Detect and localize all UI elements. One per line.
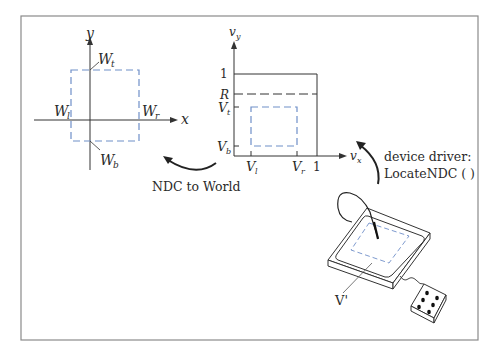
ndc-x-tick-vl: V l [246,159,258,176]
label-wr: W r [142,103,160,121]
svg-text:b: b [113,160,119,170]
svg-text:v: v [350,149,357,163]
svg-text:r: r [155,111,160,121]
ndc-y-tick-1: 1 [220,67,228,81]
world-y-label: y [85,25,95,41]
ndc-y-label: v y [229,25,241,41]
svg-text:x: x [357,156,362,165]
diagram-canvas: x y W t W b W l W r v y v x [0,0,494,355]
svg-text:l: l [67,111,70,121]
svg-text:t: t [111,59,115,69]
svg-text:t: t [227,108,231,117]
svg-text:r: r [301,167,306,176]
world-window-rect [71,70,139,141]
ndc-to-world-label: NDC to World [152,179,241,194]
device-viewport-label: V' [334,293,348,308]
label-wl: W l [54,103,70,121]
ndc-x-label: v x [350,149,362,165]
svg-text:b: b [226,147,231,156]
ndc-axes [231,41,347,159]
ndc-y-tick-vb: V b [217,139,231,156]
label-wt: W t [98,51,115,69]
svg-text:y: y [235,32,241,41]
ndc-to-world-arrow [163,156,216,170]
ndc-x-tick-vr: V r [292,159,306,176]
ndc-y-tick-vt: V t [218,100,231,117]
label-wb: W b [100,152,119,170]
device-driver-label-line2: LocateNDC ( ) [384,166,475,181]
svg-text:l: l [255,167,258,176]
ndc-viewport-rect [251,107,297,146]
device-driver-label-line1: device driver: [384,149,471,164]
world-x-label: x [181,111,189,127]
svg-text:v: v [229,25,236,39]
ndc-x-tick-1: 1 [313,160,321,174]
